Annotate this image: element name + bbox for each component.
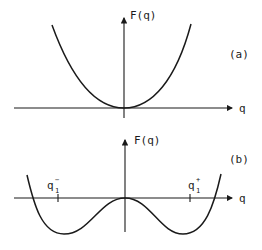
y-axis-label: F(q) [130, 9, 157, 22]
panel-b: F(q) q (b) q 1 − q 1 + [14, 134, 249, 234]
tick-label-q1-minus: q 1 − [47, 176, 59, 195]
y-axis-label: F(q) [134, 134, 161, 147]
curve-parabola [52, 24, 191, 108]
svg-text:−: − [55, 176, 59, 184]
svg-text:1: 1 [55, 187, 59, 195]
svg-text:q: q [188, 179, 195, 192]
svg-text:q: q [47, 179, 54, 192]
tick-label-q1-plus: q 1 + [188, 176, 200, 195]
svg-text:1: 1 [196, 187, 200, 195]
svg-text:+: + [196, 176, 200, 184]
panel-label: (a) [229, 48, 249, 61]
figure: F(q) q (a) F(q) q (b) q 1 − q 1 + [0, 0, 262, 250]
panel-a: F(q) q (a) [14, 9, 249, 118]
panel-label: (b) [229, 153, 249, 166]
x-axis-label: q [239, 192, 246, 205]
x-axis-label: q [239, 102, 246, 115]
